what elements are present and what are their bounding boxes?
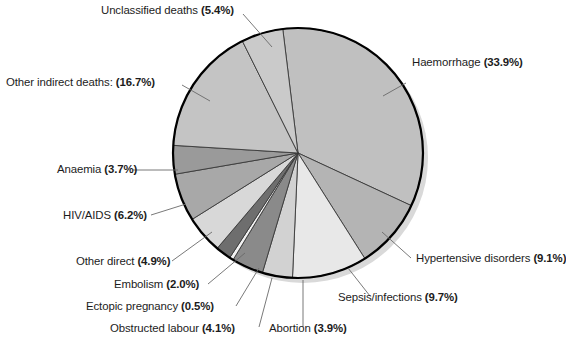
label-hiv-aids-pct: (6.2%): [114, 209, 147, 221]
label-sepsis-infections-pct: (9.7%): [425, 291, 458, 303]
label-abortion-pct: (3.9%): [314, 322, 347, 334]
label-embolism-text: Embolism: [114, 278, 163, 290]
label-unclassified-deaths-pct: (5.4%): [201, 4, 234, 16]
label-unclassified-deaths: Unclassified deaths (5.4%): [101, 4, 234, 17]
label-hypertensive-disorders: Hypertensive disorders (9.1%): [416, 252, 566, 265]
leader-embolism: [208, 253, 245, 284]
label-other-direct-text: Other direct: [76, 255, 134, 267]
label-embolism: Embolism (2.0%): [114, 278, 199, 291]
label-haemorrhage-text: Haemorrhage: [412, 56, 481, 68]
label-other-indirect-deaths: Other indirect deaths: (16.7%): [6, 76, 155, 89]
leader-obstructed-labour: [259, 278, 272, 327]
label-other-indirect-deaths-pct: (16.7%): [116, 76, 155, 88]
label-hypertensive-disorders-pct: (9.1%): [533, 252, 566, 264]
pie-slices-group: [173, 28, 423, 278]
label-abortion: Abortion (3.9%): [269, 322, 347, 335]
label-haemorrhage: Haemorrhage (33.9%): [412, 56, 523, 69]
label-ectopic-pregnancy-pct: (0.5%): [181, 300, 214, 312]
label-obstructed-labour-text: Obstructed labour: [110, 322, 199, 334]
label-ectopic-pregnancy-text: Ectopic pregnancy: [86, 300, 178, 312]
label-hiv-aids-text: HIV/AIDS: [63, 209, 111, 221]
label-unclassified-deaths-text: Unclassified deaths: [101, 4, 198, 16]
label-embolism-pct: (2.0%): [166, 278, 199, 290]
label-anaemia: Anaemia (3.7%): [57, 163, 137, 176]
leader-hiv-aids: [151, 204, 186, 215]
label-anaemia-text: Anaemia: [57, 163, 101, 175]
leader-ectopic-pregnancy: [236, 268, 259, 306]
label-sepsis-infections: Sepsis/infections (9.7%): [338, 291, 458, 304]
label-hypertensive-disorders-text: Hypertensive disorders: [416, 252, 530, 264]
label-anaemia-pct: (3.7%): [104, 163, 137, 175]
leader-other-direct: [172, 232, 212, 261]
label-hiv-aids: HIV/AIDS (6.2%): [63, 209, 147, 222]
label-other-direct-pct: (4.9%): [137, 255, 170, 267]
label-haemorrhage-pct: (33.9%): [484, 56, 523, 68]
label-obstructed-labour: Obstructed labour (4.1%): [110, 322, 235, 335]
label-sepsis-infections-text: Sepsis/infections: [338, 291, 422, 303]
label-other-direct: Other direct (4.9%): [76, 255, 170, 268]
label-ectopic-pregnancy: Ectopic pregnancy (0.5%): [86, 300, 214, 313]
label-abortion-text: Abortion: [269, 322, 311, 334]
label-other-indirect-deaths-text: Other indirect deaths:: [6, 76, 113, 88]
label-obstructed-labour-pct: (4.1%): [202, 322, 235, 334]
